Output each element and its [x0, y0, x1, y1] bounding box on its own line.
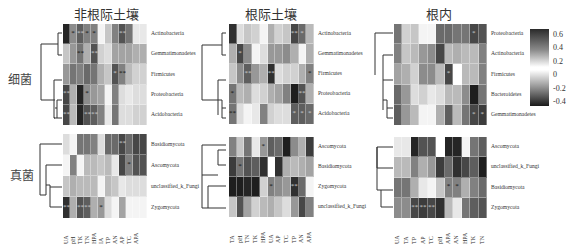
- heatmap-cell: [140, 105, 147, 125]
- heatmap-cell: *: [299, 104, 307, 124]
- heatmap-panel2-fungi: *****: [229, 137, 314, 217]
- heatmap-cell: [419, 105, 427, 125]
- row-label: unclassified_k_Fungi: [491, 163, 539, 169]
- heatmap-cell: [77, 176, 84, 197]
- heatmap-cell: [436, 157, 444, 177]
- row-label: Actinobacteria: [151, 30, 184, 36]
- heatmap-cell: *: [445, 64, 453, 84]
- heatmap-cell: [268, 197, 276, 217]
- column-label: TN: [479, 236, 485, 244]
- heatmap-cell: [411, 44, 419, 64]
- significance-marker: **: [244, 70, 251, 77]
- heatmap-cell: [419, 137, 427, 157]
- heatmap-cell: **: [119, 134, 126, 155]
- column-label: HPA: [260, 232, 266, 243]
- heatmap-cell: [436, 198, 444, 218]
- row-label: Gemmatimonadetes: [151, 50, 196, 56]
- heatmap-cell: [394, 157, 402, 177]
- heatmap-cell: [436, 24, 444, 44]
- heatmap-cell: [105, 176, 112, 197]
- column-label: AN: [453, 235, 459, 244]
- heatmap-cell: [453, 137, 461, 157]
- significance-marker: *: [299, 30, 306, 37]
- heatmap-cell: [402, 24, 410, 44]
- heatmap-cell: [283, 24, 291, 44]
- significance-marker: **: [291, 30, 298, 37]
- heatmap-cell: [237, 64, 245, 84]
- heatmap-cell: **: [268, 64, 276, 84]
- significance-marker: ***: [84, 204, 90, 211]
- significance-marker: *: [291, 110, 298, 117]
- heatmap-cell: **: [299, 84, 307, 104]
- significance-marker: **: [419, 204, 426, 211]
- heatmap-cell: [126, 44, 133, 64]
- heatmap-cell: [77, 155, 84, 176]
- heatmap-cell: [299, 177, 307, 197]
- heatmap-cell: [244, 24, 252, 44]
- heatmap-cell: [244, 104, 252, 124]
- heatmap-cell: [105, 24, 112, 44]
- heatmap-cell: [445, 24, 453, 44]
- heatmap-cell: *: [453, 178, 461, 198]
- heatmap-cell: [252, 177, 260, 197]
- heatmap-cell: **: [63, 197, 70, 218]
- column-label: HPA: [462, 233, 468, 244]
- heatmap-cell: [453, 198, 461, 218]
- heatmap-cell: [133, 155, 140, 176]
- heatmap-cell: [63, 155, 70, 176]
- heatmap-cell: [299, 157, 307, 177]
- heatmap-cell: [445, 105, 453, 125]
- heatmap-cell: [126, 105, 133, 125]
- heatmap-cell: [306, 157, 314, 177]
- heatmap-cell: [419, 157, 427, 177]
- significance-marker: **: [229, 110, 236, 117]
- heatmap-cell: *: [126, 155, 133, 176]
- heatmap-cell: *: [229, 84, 237, 104]
- heatmap-cell: [133, 176, 140, 197]
- heatmap-cell: [260, 64, 268, 84]
- heatmap-cell: **: [91, 44, 98, 64]
- heatmap-cell: [244, 137, 252, 157]
- heatmap-cell: [394, 24, 402, 44]
- heatmap-cell: [84, 134, 91, 155]
- heatmap-cell: [126, 64, 133, 84]
- heatmap-cell: [244, 177, 252, 197]
- heatmap-cell: [299, 64, 307, 84]
- significance-marker: **: [119, 30, 125, 37]
- column-label: TA: [403, 236, 409, 244]
- row-label: unclassified_k_Fungi: [151, 183, 199, 189]
- heatmap-cell: [133, 64, 140, 84]
- heatmap-cell: [306, 197, 314, 217]
- column-label: AP: [119, 236, 125, 244]
- column-label: pH: [437, 237, 443, 244]
- heatmap-cell: [237, 104, 245, 124]
- heatmap-cell: [394, 105, 402, 125]
- heatmap-cell: [283, 44, 291, 64]
- heatmap-cell: [428, 24, 436, 44]
- heatmap-cell: [402, 178, 410, 198]
- heatmap-cell: [140, 85, 147, 105]
- heatmap-cell: [260, 44, 268, 64]
- heatmap-cell: [436, 105, 444, 125]
- heatmap-cell: [229, 197, 237, 217]
- significance-marker: *: [268, 183, 275, 190]
- column-label: TA: [229, 235, 235, 243]
- row-label: Actinobacteria: [318, 30, 351, 36]
- heatmap-panel1-bacteria: ************************: [63, 24, 147, 125]
- heatmap-cell: **: [411, 198, 419, 218]
- heatmap-cell: *: [84, 24, 91, 44]
- heatmap-cell: *: [98, 197, 105, 218]
- heatmap-cell: [291, 64, 299, 84]
- column-label: IA: [98, 238, 104, 244]
- heatmap-cell: [70, 134, 77, 155]
- heatmap-cell: [275, 177, 283, 197]
- heatmap-cell: [470, 157, 478, 177]
- heatmap-cell: **: [119, 24, 126, 44]
- heatmap-cell: ***: [84, 197, 91, 218]
- column-label: pH: [237, 236, 243, 243]
- significance-marker: *: [112, 70, 118, 77]
- significance-marker: **: [77, 50, 83, 57]
- heatmap-cell: [275, 197, 283, 217]
- heatmap-cell: [237, 24, 245, 44]
- heatmap-cell: **: [119, 64, 126, 84]
